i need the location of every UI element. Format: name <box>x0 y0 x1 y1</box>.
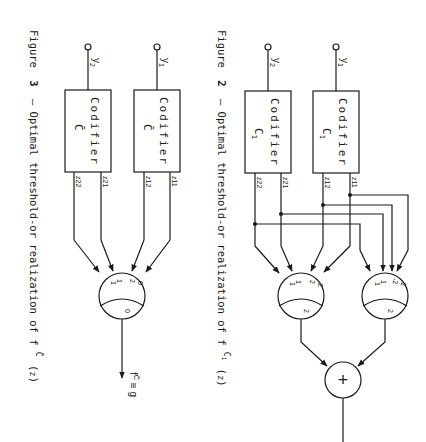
svg-text:C̄: C̄ <box>72 124 85 131</box>
fig2-codifier-2: Codifier C1 <box>245 91 291 173</box>
svg-text:2: 2 <box>303 309 310 313</box>
svg-text:2: 2 <box>317 283 324 287</box>
fig2-threshold-gate-left: 2 2 1 1 2 <box>278 273 324 319</box>
fig2-threshold-gate-right: -2 -2 1 1 2 <box>362 273 408 319</box>
fig2-input-y1: y1 <box>333 44 350 91</box>
svg-text:0: 0 <box>124 309 131 313</box>
svg-text:z11: z11 <box>351 177 358 188</box>
fig3-codifier-2: Codifier C̄ <box>65 90 111 172</box>
svg-text:y2: y2 <box>89 58 102 67</box>
svg-text:2: 2 <box>309 280 316 284</box>
svg-text:1: 1 <box>289 282 296 286</box>
svg-text:z21: z21 <box>102 176 109 187</box>
svg-text:z12: z12 <box>324 177 331 188</box>
svg-text:y1: y1 <box>158 58 171 67</box>
svg-text:2: 2 <box>387 309 394 313</box>
svg-text:Codifier: Codifier <box>268 98 281 167</box>
svg-text:Codifier: Codifier <box>157 97 170 166</box>
svg-text:1: 1 <box>374 282 381 286</box>
svg-text:z22: z22 <box>75 176 82 187</box>
svg-text:y2: y2 <box>269 58 282 67</box>
svg-text:1: 1 <box>110 281 117 285</box>
fig2-codifier-1: Codifier C1 <box>313 91 359 173</box>
figure-2-caption: Figure 2 – Optimal threshold-or realizat… <box>216 30 232 387</box>
svg-text:Codifier: Codifier <box>88 97 101 166</box>
svg-text:-2: -2 <box>392 278 399 284</box>
fig3-input-y2: y2 <box>85 44 102 90</box>
svg-text:z12: z12 <box>145 176 152 187</box>
figure-3-caption: Figure 3 – Optimal threshold-or realizat… <box>28 30 46 383</box>
fig3-input-y1: y1 <box>154 44 171 90</box>
fig2-input-y2: y2 <box>265 44 282 91</box>
svg-text:fC̄≡ g: fC̄≡ g <box>128 372 140 397</box>
fig3-threshold-gate: 0 2 1 1 0 fC̄≡ g <box>99 273 145 397</box>
svg-text:z21: z21 <box>282 177 289 188</box>
svg-text:z11: z11 <box>171 176 178 187</box>
svg-text:0: 0 <box>137 281 144 285</box>
fig2-or-node: + <box>325 362 361 442</box>
figure-2: Figure 2 – Optimal threshold-or realizat… <box>216 30 408 442</box>
svg-text:y1: y1 <box>337 58 350 67</box>
svg-text:z22: z22 <box>256 177 263 188</box>
fig3-codifier-1: Codifier C̄ <box>134 90 180 172</box>
svg-text:+: + <box>338 370 349 390</box>
svg-text:Figure 3 – Opt: Figure 3 – Optimal threshold-or realizat… <box>28 30 46 383</box>
figure-3: Figure 3 – Optimal threshold-or realizat… <box>28 30 180 397</box>
diagram-canvas: Figure 3 – Optimal threshold-or realizat… <box>0 0 426 442</box>
fig3-wires <box>74 172 170 272</box>
svg-text:2: 2 <box>129 279 136 283</box>
svg-text:Figure 2 – Opt: Figure 2 – Optimal threshold-or realizat… <box>216 30 232 387</box>
svg-text:C̄: C̄ <box>141 124 154 131</box>
svg-text:Codifier: Codifier <box>336 98 349 167</box>
svg-text:-2: -2 <box>400 280 407 286</box>
